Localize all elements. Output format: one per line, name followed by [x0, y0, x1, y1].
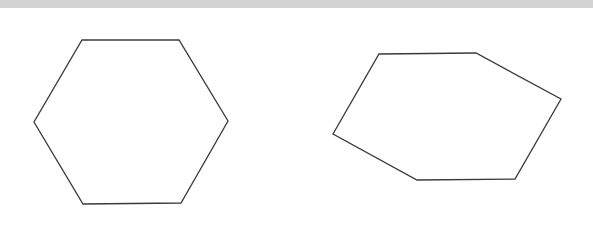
- diagram-canvas: [0, 0, 593, 231]
- hexagon-rotated: [333, 53, 561, 180]
- hexagon-regular: [34, 40, 228, 204]
